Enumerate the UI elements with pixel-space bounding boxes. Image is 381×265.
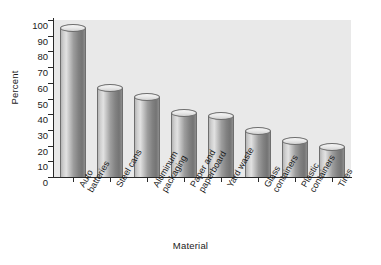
y-axis-tick-label: 60 [24,84,48,94]
y-axis-tick [48,161,54,162]
x-axis-tick [332,178,333,182]
y-axis-tick [48,114,54,115]
y-axis-tick [48,146,54,147]
y-axis-title: Percent [9,53,20,123]
y-axis-tick [48,177,54,178]
y-axis-tick [48,67,54,68]
x-axis-title: Material [0,240,381,251]
y-axis-tick-label: 50 [24,100,48,110]
y-axis-tick-label: 0 [24,178,48,188]
bar-top-ellipse [245,127,271,135]
bar-top-ellipse [171,109,197,117]
x-axis-tick [184,178,185,182]
bar [134,97,160,177]
y-axis-tick [48,36,54,37]
bar-top-ellipse [60,24,86,32]
x-axis-tick [295,178,296,182]
y-axis-tick-label: 20 [24,147,48,157]
y-axis-tick [48,20,54,21]
y-axis-tick-label: 90 [24,37,48,47]
y-axis-tick [48,99,54,100]
x-axis-tick [147,178,148,182]
bar [60,28,86,177]
y-axis-tick-label: 80 [24,52,48,62]
bar-top-ellipse [208,112,234,120]
bar-top-ellipse [97,84,123,92]
x-axis-tick [73,178,74,182]
y-axis-tick [48,83,54,84]
x-axis-tick [258,178,259,182]
x-axis-tick [221,178,222,182]
bar-chart: Percent 1009080706050403020100 Autobatte… [0,0,381,265]
y-axis-tick-label: 30 [24,131,48,141]
x-axis-tick [110,178,111,182]
y-axis-tick-label: 10 [24,162,48,172]
bar-top-ellipse [282,137,308,145]
y-axis-tick-label: 70 [24,68,48,78]
y-axis-tick-labels: 1009080706050403020100 [24,20,48,183]
y-axis-tick-label: 40 [24,115,48,125]
y-axis-tick [48,51,54,52]
y-axis-tick-label: 100 [24,21,48,31]
bar-top-ellipse [134,93,160,101]
y-axis-tick [48,130,54,131]
